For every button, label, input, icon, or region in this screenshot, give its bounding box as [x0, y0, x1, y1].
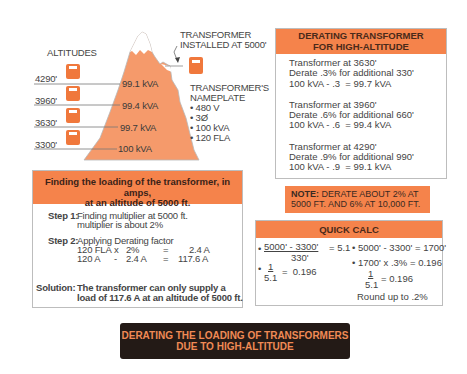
transformer-icon-3630	[66, 108, 80, 123]
qc-right-denominator: 5.1	[365, 279, 378, 290]
qc-round-note: Round up to .2%	[357, 291, 428, 302]
note-line1: DERATE ABOUT 2% AT	[319, 189, 419, 199]
kva-3300: 100 kVA	[118, 144, 152, 155]
derating-line: 100 kVA - .6 = 99.4 kVA	[289, 120, 446, 130]
transformer-icon-4290	[66, 64, 80, 79]
derating-group-4290: Transformer at 4290' Derate .9% for addi…	[289, 142, 446, 173]
qc-right-result: = 0.196	[381, 273, 413, 284]
altitude-3630: 3630'	[35, 118, 57, 129]
note-line2: 5000 FT. AND 6% AT 10,000 FT.	[291, 199, 430, 209]
banner-line2: DUE TO HIGH-ALTITUDE	[120, 341, 350, 352]
installed-label-line2: INSTALLED AT 5000'	[180, 40, 266, 51]
qc-right-line2: • 1700' x .3% = 0.196	[352, 257, 442, 268]
solution-line2: load of 117.6 A at an altitude of 5000 f…	[77, 293, 243, 304]
derating-title-line2: FOR HIGH-ALTITUDE	[276, 42, 446, 53]
step2-label: Step 2:	[48, 236, 78, 247]
derating-group-3960: Transformer at 3960' Derate .6% for addi…	[289, 100, 446, 131]
qc-right-numerator: 1	[365, 268, 376, 279]
calc-row-result: 117.6 A	[178, 254, 208, 265]
nameplate-item: • 120 FLA	[190, 133, 230, 144]
step1-label: Step 1:	[48, 211, 78, 222]
qc-left-denominator2: 5.1	[264, 272, 277, 283]
altitude-3960: 3960'	[35, 96, 57, 107]
qc-left-result2: = 0.196	[282, 266, 317, 277]
qc-left-denominator1: 330'	[291, 252, 309, 263]
steps-title-line2: at an altitude of 5000 ft.	[33, 198, 242, 209]
derating-group-3630: Transformer at 3630' Derate .3% for addi…	[289, 58, 446, 89]
arrow-icon	[175, 57, 180, 63]
derating-line: 100 kVA - .3 = 99.7 kVA	[289, 79, 446, 89]
calc-row-a: 120 A	[77, 254, 100, 265]
qc-left-numerator2: 1	[264, 261, 277, 272]
steps-header: Finding the loading of the transformer, …	[33, 171, 242, 204]
qc-right-line1: • 5000' - 3300' = 1700'	[352, 242, 446, 253]
transformer-icon-installed	[189, 57, 203, 74]
kva-3630: 99.7 kVA	[120, 123, 156, 134]
qc-left-bullet2: •	[258, 263, 261, 274]
calc-row-b: 2.4 A	[126, 254, 147, 265]
caption-banner: DERATING THE LOADING OF TRANSFORMERS DUE…	[120, 323, 350, 359]
qc-left-numerator1: 5000' - 3300'	[264, 241, 318, 252]
solution-label: Solution:	[36, 283, 75, 294]
banner-line1: DERATING THE LOADING OF TRANSFORMERS	[120, 330, 350, 341]
steps-title-line1: Finding the loading of the transformer, …	[33, 177, 242, 198]
qc-left-result1: = 5.1	[329, 242, 350, 253]
altitudes-label: ALTITUDES	[47, 48, 97, 59]
kva-4290: 99.1 kVA	[122, 79, 158, 90]
altitude-3300: 3300'	[35, 140, 57, 151]
transformer-icon-3300	[66, 130, 80, 145]
altitude-4290: 4290'	[35, 74, 57, 85]
calc-row-op: -	[114, 254, 117, 265]
note-prefix: NOTE:	[291, 189, 319, 199]
quick-calc-title: QUICK CALC	[256, 221, 442, 238]
note-box: NOTE: DERATE ABOUT 2% AT 5000 FT. AND 6%…	[285, 186, 430, 213]
transformer-icon-3960	[66, 86, 80, 101]
derating-box: DERATING TRANSFORMER FOR HIGH-ALTITUDE T…	[275, 28, 447, 179]
derating-title-line1: DERATING TRANSFORMER	[276, 31, 446, 42]
qc-left-bullet1: •	[258, 243, 261, 254]
calc-row-eq: =	[163, 254, 168, 265]
derating-box-header: DERATING TRANSFORMER FOR HIGH-ALTITUDE	[276, 29, 446, 54]
step1-line2: multiplier is about 2%	[77, 220, 163, 231]
derating-line: 100 kVA - .9 = 99.1 kVA	[289, 162, 446, 172]
kva-3960: 99.4 kVA	[122, 101, 158, 112]
